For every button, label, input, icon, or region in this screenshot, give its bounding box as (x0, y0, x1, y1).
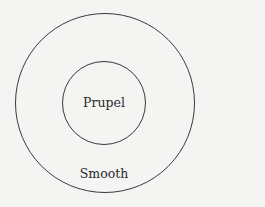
diagram-canvas: Prupel Smooth (0, 0, 265, 207)
euler-diagram: Prupel Smooth (0, 0, 265, 207)
outer-circle-label: Smooth (80, 166, 129, 181)
inner-circle-label: Prupel (83, 95, 125, 110)
